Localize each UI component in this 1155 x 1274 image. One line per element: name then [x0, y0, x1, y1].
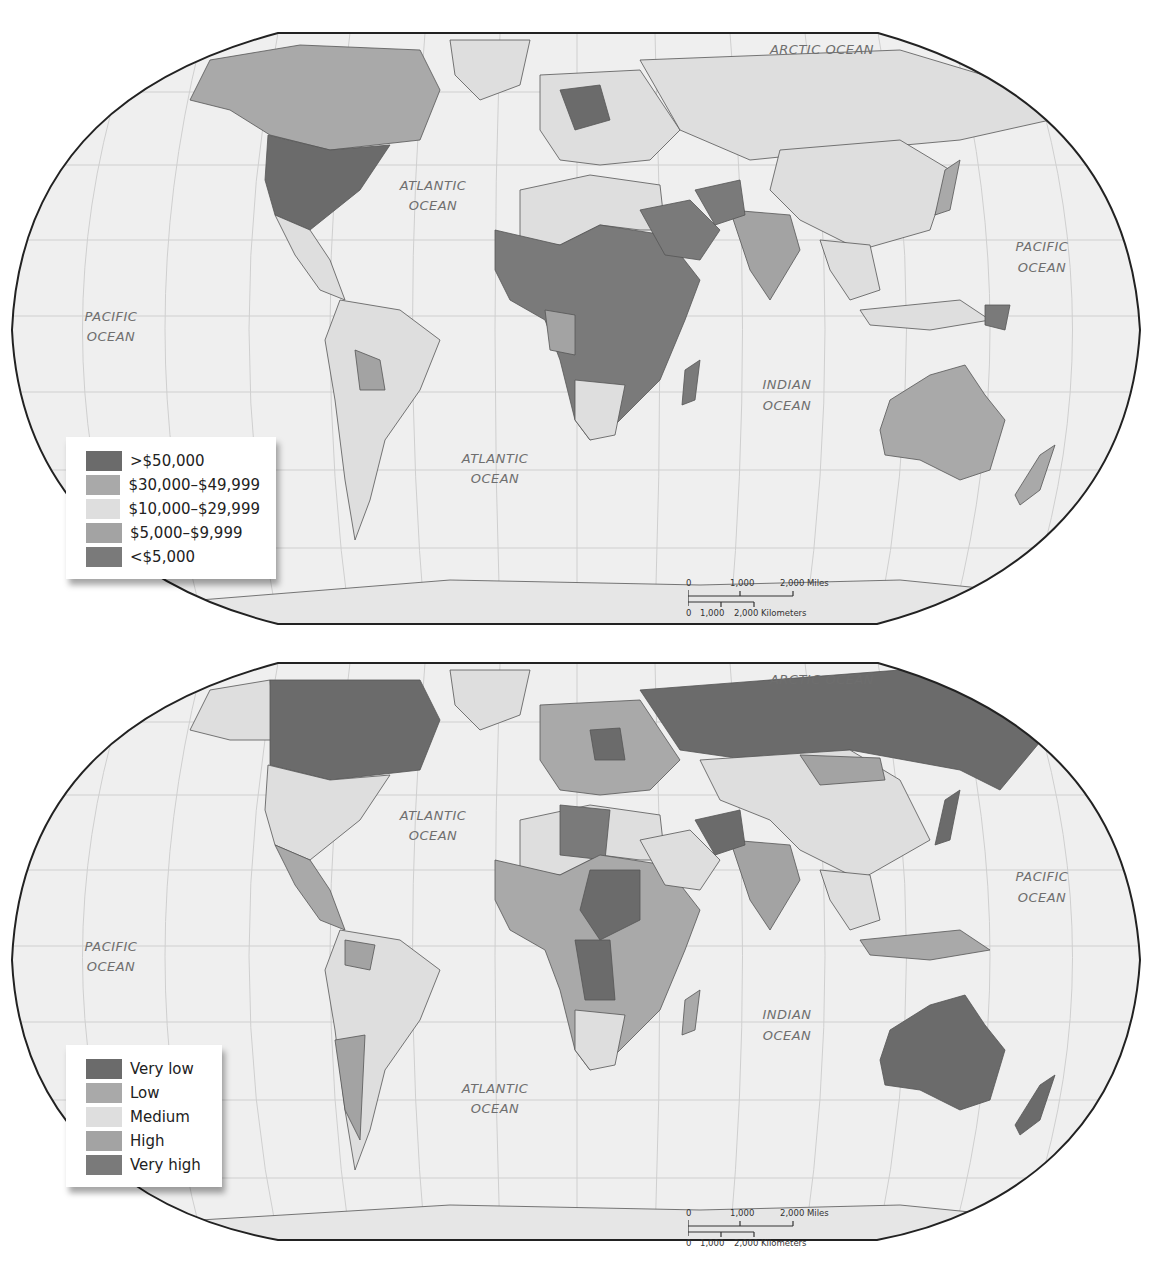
indian-label-2: OCEAN — [763, 398, 812, 413]
atlantic-south-label-1: ATLANTIC — [461, 1081, 529, 1096]
legend-swatch — [86, 547, 122, 567]
pacific-east-label-2: OCEAN — [1018, 890, 1067, 905]
legend-item: High — [86, 1129, 206, 1153]
pacific-east-label-1: PACIFIC — [1016, 239, 1069, 254]
legend-swatch — [86, 1131, 122, 1151]
legend-item: $10,000–$29,999 — [86, 497, 260, 521]
rating-legend: Very low Low Medium High Very high — [66, 1045, 222, 1187]
pacific-east-label-2: OCEAN — [1018, 260, 1067, 275]
indian-label-1: INDIAN — [762, 1007, 811, 1022]
pacific-east-label-1: PACIFIC — [1016, 869, 1069, 884]
pacific-west-label-2: OCEAN — [87, 959, 136, 974]
legend-item: Very high — [86, 1153, 206, 1177]
legend-item: $5,000–$9,999 — [86, 521, 260, 545]
legend-swatch — [86, 1059, 122, 1079]
legend-item: $30,000–$49,999 — [86, 473, 260, 497]
legend-swatch — [86, 523, 122, 543]
atlantic-south-label-2: OCEAN — [471, 1101, 520, 1116]
atlantic-south-label-2: OCEAN — [471, 471, 520, 486]
legend-item: Low — [86, 1081, 206, 1105]
pacific-west-label-1: PACIFIC — [85, 309, 138, 324]
pacific-west-label-1: PACIFIC — [85, 939, 138, 954]
atlantic-north-label-1: ATLANTIC — [399, 808, 467, 823]
indian-label-1: INDIAN — [762, 377, 811, 392]
legend-item: Medium — [86, 1105, 206, 1129]
legend-swatch — [86, 1155, 122, 1175]
pacific-west-label-2: OCEAN — [87, 329, 136, 344]
rating-map-panel: ARCTIC OCEAN ATLANTIC OCEAN ATLANTIC OCE… — [0, 640, 1155, 1274]
scale-bar: 0 1,000 2,000 Miles 0 1,000 2,000 Kilome… — [686, 578, 836, 622]
arctic-ocean-label: ARCTIC OCEAN — [769, 672, 874, 687]
legend-item: <$5,000 — [86, 545, 260, 569]
arctic-ocean-label: ARCTIC OCEAN — [769, 42, 874, 57]
legend-swatch — [86, 1083, 122, 1103]
legend-swatch — [86, 451, 122, 471]
legend-item: >$50,000 — [86, 449, 260, 473]
income-map-panel: ARCTIC OCEAN ATLANTIC OCEAN ATLANTIC OCE… — [0, 0, 1155, 640]
atlantic-north-label-2: OCEAN — [409, 828, 458, 843]
atlantic-north-label-1: ATLANTIC — [399, 178, 467, 193]
atlantic-south-label-1: ATLANTIC — [461, 451, 529, 466]
legend-swatch — [86, 499, 120, 519]
legend-item: Very low — [86, 1057, 206, 1081]
atlantic-north-label-2: OCEAN — [409, 198, 458, 213]
legend-swatch — [86, 1107, 122, 1127]
income-legend: >$50,000 $30,000–$49,999 $10,000–$29,999… — [66, 437, 276, 579]
indian-label-2: OCEAN — [763, 1028, 812, 1043]
scale-bar: 0 1,000 2,000 Miles 0 1,000 2,000 Kilome… — [686, 1208, 836, 1252]
legend-swatch — [86, 475, 120, 495]
